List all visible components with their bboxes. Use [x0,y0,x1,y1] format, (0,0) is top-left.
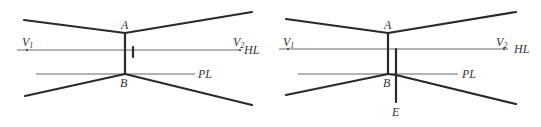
connector-b [388,74,396,75]
label-a: A [383,18,392,32]
label-b: B [383,76,391,90]
bottom-right-edge [396,75,516,104]
vanishing-point-v1 [26,49,28,51]
label-b: B [120,76,128,90]
right-panel: A B E V1 V2 HL PL [279,12,530,119]
label-v1: V1 [283,35,294,50]
top-right-edge [125,12,252,33]
label-pl: PL [461,67,476,81]
bottom-right-edge [125,74,252,105]
label-a: A [120,18,129,32]
top-right-edge [388,12,516,33]
bottom-left-edge [286,74,388,95]
label-hl: HL [513,42,530,56]
perspective-diagram: A B V1 V2 HL PL A B E V1 V2 HL PL [0,0,541,127]
bottom-left-edge [25,74,125,96]
top-left-edge [286,19,388,33]
label-hl: HL [243,43,260,57]
top-left-edge [24,20,125,33]
label-e: E [391,105,400,119]
label-pl: PL [197,67,212,81]
label-v2: V2 [233,35,244,50]
label-v1: V1 [22,35,33,50]
label-v2: V2 [496,35,507,50]
left-panel: A B V1 V2 HL PL [17,12,260,105]
